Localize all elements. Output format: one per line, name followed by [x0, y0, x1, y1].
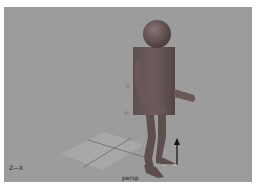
scene-canvas[interactable] — [4, 7, 252, 182]
legs — [144, 115, 176, 178]
perspective-viewport[interactable]: Z—X persp — [4, 7, 252, 182]
pivot-marker-icon — [123, 83, 131, 116]
axis-orientation-indicator: Z—X — [9, 164, 23, 171]
head-sphere[interactable] — [143, 20, 171, 48]
camera-name-label: persp — [122, 174, 139, 181]
ground-grid — [61, 132, 144, 170]
